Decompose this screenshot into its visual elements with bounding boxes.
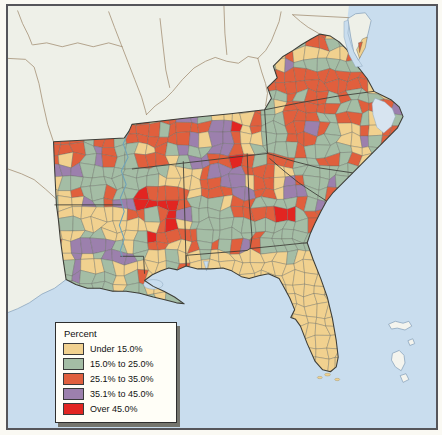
legend-item: Under 15.0% [63, 343, 169, 355]
legend-item: 25.1% to 35.0% [63, 373, 169, 385]
legend-swatch-15-25 [63, 358, 84, 370]
legend-swatch-over-45 [63, 403, 84, 415]
legend-item: Over 45.0% [63, 403, 169, 415]
map-legend: Percent Under 15.0% 15.0% to 25.0% 25.1%… [55, 322, 177, 423]
lake-pontchartrain [144, 280, 163, 290]
legend-swatch-35-45 [63, 388, 84, 400]
legend-swatch-25-35 [63, 373, 84, 385]
legend-title: Percent [64, 328, 169, 339]
map-frame: Percent Under 15.0% 15.0% to 25.0% 25.1%… [6, 4, 438, 430]
legend-item: 15.0% to 25.0% [63, 358, 169, 370]
scale-bar: 0 100 200 300 Miles 0 100 200 300 Kilome… [190, 392, 442, 435]
legend-item: 35.1% to 45.0% [63, 388, 169, 400]
legend-swatch-under-15 [63, 343, 84, 355]
